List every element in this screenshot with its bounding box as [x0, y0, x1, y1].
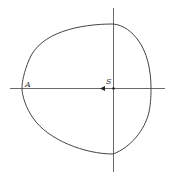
- point-s-dot: [112, 87, 115, 90]
- arrow-left-icon: [100, 86, 105, 91]
- label-s: S: [106, 77, 112, 86]
- closed-curve: [22, 24, 151, 154]
- label-a: A: [24, 80, 31, 89]
- orbit-diagram: A S: [0, 0, 173, 178]
